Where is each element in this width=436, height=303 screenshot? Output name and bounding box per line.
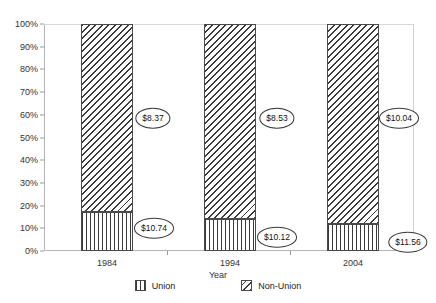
diagonal-hatch-swatch-icon [241,280,252,291]
y-tick-label-90: 90% [20,42,38,51]
bar-group-2004[interactable] [327,24,379,251]
stacked-bar-chart: 100% 90% 80% 70% 60% 50% 40% 30% 20% 10%… [0,0,436,303]
legend-label-nonunion: Non-Union [258,281,301,291]
y-tick-mark-90 [40,46,44,47]
bar-segment-union-1984[interactable] [81,212,133,251]
y-tick-mark-100 [40,24,44,25]
y-tick-mark-10 [40,228,44,229]
y-axis-labels: 100% 90% 80% 70% 60% 50% 40% 30% 20% 10%… [0,24,38,251]
bar-group-1994[interactable] [204,24,256,251]
y-tick-label-30: 30% [20,178,38,187]
plot-right-border [413,24,414,251]
legend-item-nonunion[interactable]: Non-Union [241,280,301,291]
y-tick-label-60: 60% [20,110,38,119]
bar-segment-nonunion-1984[interactable] [81,24,133,212]
y-tick-mark-30 [40,182,44,183]
data-label-nonunion-2004: $10.04 [379,108,419,129]
legend-item-union[interactable]: Union [135,280,176,291]
bar-segment-union-2004[interactable] [327,224,379,251]
y-tick-label-70: 70% [20,88,38,97]
x-axis-title: Year [0,270,436,280]
y-tick-label-40: 40% [20,156,38,165]
y-tick-label-100: 100% [15,20,38,29]
vertical-lines-swatch-icon [135,280,146,291]
bar-segment-nonunion-2004[interactable] [327,24,379,224]
y-tick-label-20: 20% [20,201,38,210]
y-tick-mark-70 [40,92,44,93]
data-label-nonunion-1984: $8.37 [135,108,170,129]
data-label-union-1994: $10.12 [257,227,297,248]
chart-legend: Union Non-Union [0,280,436,291]
y-tick-mark-40 [40,160,44,161]
y-tick-label-80: 80% [20,65,38,74]
legend-label-union: Union [152,281,176,291]
y-tick-mark-20 [40,205,44,206]
y-tick-mark-50 [40,137,44,138]
data-label-union-2004: $11.56 [388,232,427,253]
x-tick-label-2004: 2004 [343,258,363,268]
y-tick-mark-80 [40,69,44,70]
bar-group-1984[interactable] [81,24,133,251]
y-tick-label-10: 10% [20,224,38,233]
x-tick-mark-1 [167,251,168,255]
y-tick-label-50: 50% [20,133,38,142]
y-tick-label-0: 0% [25,247,38,256]
y-tick-mark-0 [40,251,44,252]
x-tick-label-1994: 1994 [220,258,240,268]
data-label-union-1984: $10.74 [134,218,174,239]
x-tick-mark-2 [290,251,291,255]
bar-segment-union-1994[interactable] [204,219,256,251]
y-tick-mark-60 [40,114,44,115]
x-tick-label-1984: 1984 [97,258,117,268]
bar-segment-nonunion-1994[interactable] [204,24,256,219]
data-label-nonunion-1994: $8.53 [259,108,294,129]
